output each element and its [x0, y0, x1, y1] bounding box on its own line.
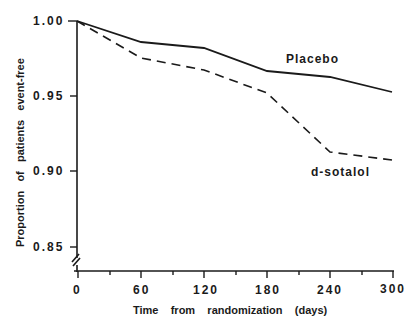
y-tick-label: 0.90 [33, 164, 64, 178]
y-axis-title: Proportion of patients event-free [14, 58, 26, 247]
placebo-label: Placebo [286, 52, 339, 66]
y-tick-label: 0.85 [33, 240, 64, 254]
d-sotalol-line [77, 21, 392, 160]
x-tick-label: 180 [255, 283, 281, 297]
y-ticks [68, 21, 77, 247]
x-tick-label: 120 [193, 283, 219, 297]
x-tick-label: 60 [133, 283, 150, 297]
x-ticks [78, 271, 393, 278]
x-tick-label: 300 [380, 282, 406, 296]
axis-break-icon [72, 254, 80, 266]
y-tick-label: 0.95 [33, 89, 64, 103]
d-sotalol-label: d-sotalol [311, 165, 370, 179]
x-axis-title: Time from randomization (days) [133, 304, 327, 316]
y-tick-label: 1.00 [33, 14, 64, 28]
x-tick-label: 240 [317, 283, 343, 297]
x-tick-label: 0 [73, 283, 82, 297]
survival-chart: 1.00 0.95 0.90 0.85 0 60 120 180 240 300… [0, 0, 416, 334]
